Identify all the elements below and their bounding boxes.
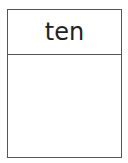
- flash-card: ten: [7, 9, 122, 158]
- card-header: ten: [8, 10, 121, 55]
- card-title: ten: [45, 20, 84, 44]
- card-body: [8, 55, 121, 157]
